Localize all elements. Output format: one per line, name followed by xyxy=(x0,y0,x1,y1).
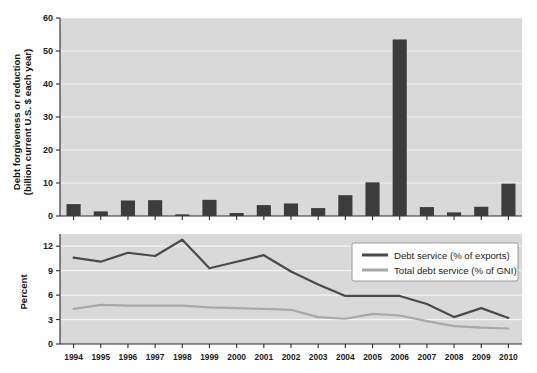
year-label-2010: 2010 xyxy=(499,352,518,362)
bar-2001 xyxy=(257,205,271,216)
year-label-2006: 2006 xyxy=(390,352,409,362)
bar-1996 xyxy=(121,200,135,216)
year-label-2009: 2009 xyxy=(472,352,491,362)
bar-2004 xyxy=(338,195,352,216)
bar-2007 xyxy=(420,207,434,216)
year-label-2000: 2000 xyxy=(227,352,246,362)
bar-2006 xyxy=(393,39,407,216)
bar-2009 xyxy=(474,207,488,216)
line-chart-panel: 036912 199419951996199719981999200020012… xyxy=(18,234,522,362)
line-y-axis-title: Percent xyxy=(18,274,29,310)
figure-container: 0102030405060 Debt forgiveness or reduct… xyxy=(0,0,537,373)
year-label-1997: 1997 xyxy=(146,352,165,362)
bar-2002 xyxy=(284,203,298,216)
legend: Debt service (% of exports) Total debt s… xyxy=(352,243,518,281)
ytick-label-bar-50: 50 xyxy=(43,46,53,56)
bar-x-axis-ticks xyxy=(74,216,509,220)
line-x-axis-ticks xyxy=(74,344,509,348)
bar-1999 xyxy=(202,200,216,216)
ytick-label-bar-60: 60 xyxy=(43,13,53,23)
bar-y-axis-title: Debt forgiveness or reduction (billion c… xyxy=(11,49,33,196)
two-panel-chart: 0102030405060 Debt forgiveness or reduct… xyxy=(0,0,537,373)
ytick-label-line-0: 0 xyxy=(48,339,53,349)
bar-1995 xyxy=(94,211,108,216)
bar-1997 xyxy=(148,200,162,216)
ytick-label-line-9: 9 xyxy=(48,266,53,276)
year-label-2002: 2002 xyxy=(282,352,301,362)
year-label-2008: 2008 xyxy=(445,352,464,362)
year-label-1994: 1994 xyxy=(64,352,83,362)
bar-1994 xyxy=(67,204,81,216)
bar-chart-panel: 0102030405060 Debt forgiveness or reduct… xyxy=(11,13,522,221)
year-label-2003: 2003 xyxy=(309,352,328,362)
year-label-2005: 2005 xyxy=(363,352,382,362)
year-label-2001: 2001 xyxy=(255,352,274,362)
ytick-label-line-12: 12 xyxy=(43,241,53,251)
bar-2008 xyxy=(447,212,461,216)
bar-2010 xyxy=(501,184,515,216)
line-y-axis-ticks xyxy=(56,246,60,344)
line-y-axis-tick-labels: 036912 xyxy=(43,241,53,349)
x-axis-year-labels: 1994199519961997199819992000200120022003… xyxy=(64,352,518,362)
bar-2000 xyxy=(230,213,244,216)
ytick-label-line-6: 6 xyxy=(48,290,53,300)
year-label-1996: 1996 xyxy=(119,352,138,362)
bar-y-axis-title-line1: Debt forgiveness or reduction xyxy=(11,54,22,191)
legend-label-debt-service-exports: Debt service (% of exports) xyxy=(394,250,510,261)
ytick-label-bar-40: 40 xyxy=(43,79,53,89)
year-label-2004: 2004 xyxy=(336,352,355,362)
bar-y-axis-ticks xyxy=(56,18,60,216)
ytick-label-bar-20: 20 xyxy=(43,145,53,155)
bar-1998 xyxy=(175,214,189,216)
bar-2003 xyxy=(311,208,325,216)
year-label-1999: 1999 xyxy=(200,352,219,362)
ytick-label-bar-0: 0 xyxy=(48,211,53,221)
ytick-label-bar-30: 30 xyxy=(43,112,53,122)
year-label-1998: 1998 xyxy=(173,352,192,362)
bar-2005 xyxy=(365,182,379,216)
year-label-2007: 2007 xyxy=(418,352,437,362)
ytick-label-line-3: 3 xyxy=(48,315,53,325)
legend-label-total-debt-service-gni: Total debt service (% of GNI) xyxy=(394,265,517,276)
bar-y-axis-tick-labels: 0102030405060 xyxy=(43,13,53,221)
year-label-1995: 1995 xyxy=(91,352,110,362)
bar-y-axis-title-line2: (billion current U.S. $ each year) xyxy=(22,49,33,196)
ytick-label-bar-10: 10 xyxy=(43,178,53,188)
